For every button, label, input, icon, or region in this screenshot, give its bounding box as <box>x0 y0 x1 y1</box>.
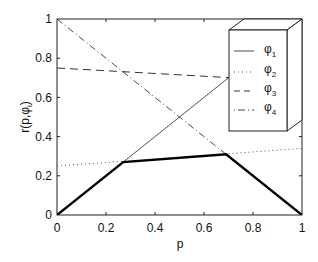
legend: φ1 φ2 φ3 φ4 <box>229 19 302 131</box>
y-tick-0.2: 0.2 <box>35 169 52 183</box>
y-tick-0.8: 0.8 <box>35 51 52 65</box>
x-tick-0.6: 0.6 <box>196 221 213 235</box>
y-tick-0: 0 <box>45 208 52 222</box>
y-tick-labels: 0 0.2 0.4 0.6 0.8 1 <box>35 12 52 222</box>
chart-canvas: 0 0.2 0.4 0.6 0.8 1 0 0.2 0.4 0.6 0.8 1 … <box>0 0 318 262</box>
x-tick-0: 0 <box>54 221 61 235</box>
x-tick-0.8: 0.8 <box>245 221 262 235</box>
legend-box <box>229 30 287 131</box>
x-tick-labels: 0 0.2 0.4 0.6 0.8 1 <box>54 221 306 235</box>
x-axis-label: p <box>177 237 184 251</box>
y-tick-0.4: 0.4 <box>35 130 52 144</box>
y-tick-1: 1 <box>45 12 52 26</box>
x-tick-1: 1 <box>299 221 306 235</box>
x-tick-0.4: 0.4 <box>147 221 164 235</box>
y-axis-label: r(p,φi) <box>18 101 34 133</box>
y-tick-0.6: 0.6 <box>35 91 52 105</box>
x-tick-0.2: 0.2 <box>98 221 115 235</box>
legend-side-face <box>287 19 302 131</box>
